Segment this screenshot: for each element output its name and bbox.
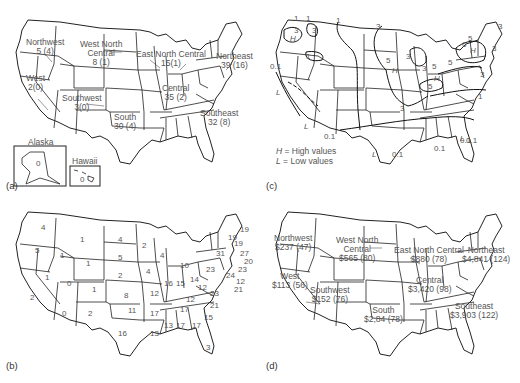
state-value-mn: 2 [142, 242, 146, 250]
region-label-central: Central 35 (2) [162, 84, 189, 102]
inset-value-alaska: 0 [36, 160, 40, 168]
isoline-label: 0.1 [466, 136, 477, 145]
state-value-mt: 1 [80, 236, 84, 244]
region-label-south: South $2,84 (78) [364, 306, 403, 324]
region-label-central: Central $3,420 (98) [408, 276, 451, 294]
state-value-md: 21 [234, 286, 243, 294]
isoline-label: 1 [306, 52, 310, 61]
state-value-wa: 4 [41, 224, 45, 232]
state-value-ia: 4 [146, 268, 150, 276]
isoline-label: 0.1 [392, 150, 403, 159]
state-value-sc: 15 [204, 314, 213, 322]
state-value-ks: 8 [124, 292, 128, 300]
state-value-il: 16 [164, 280, 173, 288]
isoline-label: 1 [478, 92, 482, 101]
isoline-label: L [372, 150, 376, 159]
region-label-southwest: Southwest $152 (76) [310, 286, 350, 304]
isoline-label: 3 [376, 22, 380, 31]
state-value-wv: 12 [198, 284, 207, 292]
panel-tag-d: (d) [266, 360, 278, 371]
inset-value-hawaii: 0 [80, 176, 84, 184]
isoline-label: L [304, 122, 308, 131]
state-value-ms: 13 [164, 322, 173, 330]
isoline-label: 0.1 [270, 62, 281, 71]
state-value-co: 1 [92, 286, 96, 294]
state-value-pa: 23 [206, 266, 215, 274]
isoline-label: 1 [306, 14, 310, 23]
state-value-sd: 5 [118, 254, 122, 262]
state-value-nc: 21 [210, 302, 219, 310]
isoline-label: 3 [312, 26, 316, 35]
state-value-or: 5 [35, 247, 39, 255]
isoline-label: 1 [336, 16, 340, 25]
legend-low: L = Low values [276, 156, 336, 166]
region-label-east-north-central: East North Central 15(1) [136, 50, 206, 68]
isoline-label: 5 [432, 62, 436, 71]
isoline-label: H [290, 34, 296, 43]
legend: H = High values L = Low values [276, 146, 336, 166]
state-value-wy: 1 [86, 260, 90, 268]
isoline-label: 5 [448, 58, 452, 67]
state-value-la: 13 [150, 330, 159, 338]
state-value-ky: 12 [186, 296, 195, 304]
region-label-northeast: Northeast $4,841 (124) [462, 246, 510, 264]
region-label-northwest: Northwest 5 (4) [26, 38, 64, 56]
panel-d: Northwest $237 (47) West North Central $… [260, 192, 520, 383]
state-value-ct: 23 [238, 266, 247, 274]
panel-tag-b: (b) [6, 360, 18, 371]
state-value-ny: 31 [216, 250, 225, 258]
panel-tag-c: (c) [266, 180, 277, 191]
region-label-northeast: Northeast 39 (16) [216, 52, 253, 70]
region-label-east-north-central: East North Central $880 (78) [394, 246, 464, 264]
state-value-me: 19 [240, 226, 249, 234]
state-value-nd: 4 [118, 236, 122, 244]
state-value-in: 15 [176, 280, 185, 288]
state-value-nm: 2 [88, 310, 92, 318]
legend-high: H = High values [276, 146, 336, 156]
isoline-label: H [470, 46, 476, 55]
state-value-wi: 4 [160, 252, 164, 260]
region-label-west: West $113 (56) [272, 272, 308, 290]
region-label-southwest: Southwest 3(0) [62, 94, 102, 112]
state-value-ga: 17 [192, 322, 201, 330]
state-value-al: 17 [176, 322, 185, 330]
isoline-label: 0.1 [324, 132, 335, 141]
region-label-southeast: Southeast 32 (8) [200, 109, 238, 127]
panel-tag-a: (a) [6, 180, 18, 191]
isoline-label: H [392, 66, 398, 75]
isoline-label: 3 [406, 52, 410, 61]
state-value-ne: 2 [118, 272, 122, 280]
state-value-va: 23 [210, 290, 219, 298]
state-value-ca: 2 [30, 294, 34, 302]
isoline-label: 5 [428, 82, 432, 91]
region-label-west-north-central: West North Central $565 (80) [336, 236, 378, 263]
state-value-nh: 19 [234, 240, 243, 248]
state-value-ar: 17 [150, 310, 159, 318]
isoline-label: L [276, 88, 280, 97]
state-value-nj: 24 [226, 272, 235, 280]
state-value-tn: 17 [180, 306, 189, 314]
region-label-northwest: Northwest $237 (47) [274, 234, 312, 252]
state-value-ok: 11 [128, 307, 136, 315]
panel-b: 4 5 2 1 1 1 1 0 1 0 2 4 5 2 8 11 16 2 4 … [0, 192, 260, 383]
state-value-ut: 0 [67, 280, 71, 288]
isoline-label: 0.1 [434, 144, 445, 153]
state-value-id: 1 [60, 252, 64, 260]
inset-label-alaska: Alaska [28, 138, 54, 147]
state-value-tx: 16 [118, 330, 127, 338]
region-label-west: West 2(0) [26, 74, 45, 92]
region-label-southeast: Southeast $3,903 (122) [450, 302, 498, 320]
region-label-west-north-central: West North Central 8 (1) [80, 40, 122, 67]
isoline-label: 3 [480, 70, 484, 79]
region-label-south: South 30 (4) [114, 113, 136, 131]
isoline-label: 5 [386, 56, 390, 65]
isoline-label: 1 [294, 14, 298, 23]
state-value-fl: 3 [206, 344, 210, 352]
isoline-label: 3 [422, 64, 426, 73]
isoline-label: 3 [492, 44, 496, 53]
state-value-nv: 1 [45, 274, 49, 282]
state-value-mi: 10 [180, 262, 189, 270]
state-value-az: 0 [62, 310, 66, 318]
state-value-mo: 12 [150, 290, 159, 298]
inset-label-hawaii: Hawaii [72, 157, 98, 166]
